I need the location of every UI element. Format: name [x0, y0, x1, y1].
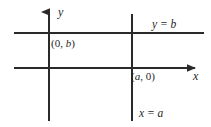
point-label-y-intercept: (0, b) — [51, 38, 75, 49]
point-0b-open: (0, — [51, 37, 66, 49]
point-label-x-intercept: (a, 0) — [131, 71, 155, 82]
point-a0-close: , 0) — [140, 70, 155, 82]
line-label-y-equals-b: y = b — [152, 19, 176, 31]
x-axis-label: x — [193, 70, 198, 82]
y-axis-label: y — [58, 6, 63, 18]
point-0b-close: ) — [71, 37, 75, 49]
coordinate-axes-figure: y x y = b x = a (0, b) (a, 0) — [0, 0, 211, 127]
figure-canvas — [0, 0, 211, 127]
line-label-x-equals-a: x = a — [139, 108, 163, 120]
